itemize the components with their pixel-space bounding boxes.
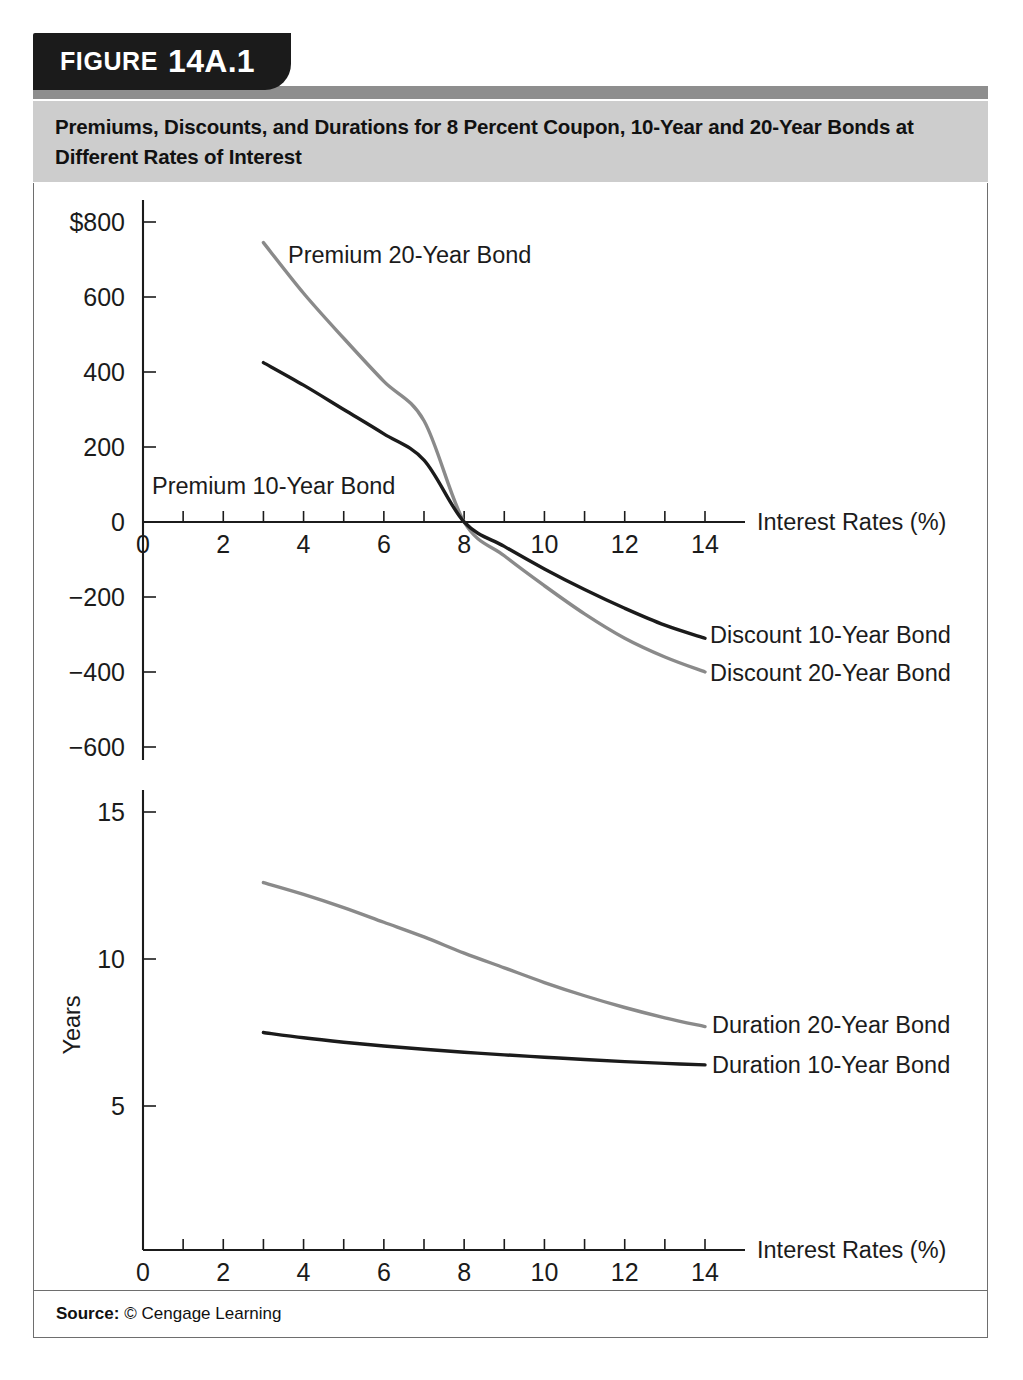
figure-label: FIGURE [60, 47, 158, 76]
figure-number: 14A.1 [168, 43, 255, 80]
source-label: Source: [56, 1304, 119, 1324]
source-band: Source: © Cengage Learning [33, 1291, 988, 1338]
figure-caption-band: Premiums, Discounts, and Durations for 8… [33, 101, 988, 182]
figure-number-tab: FIGURE 14A.1 [33, 33, 291, 90]
figure-container: FIGURE 14A.1 Premiums, Discounts, and Du… [0, 0, 1023, 1380]
plot-frame [33, 183, 988, 1291]
source-value: © Cengage Learning [124, 1304, 281, 1324]
figure-caption: Premiums, Discounts, and Durations for 8… [55, 112, 970, 172]
